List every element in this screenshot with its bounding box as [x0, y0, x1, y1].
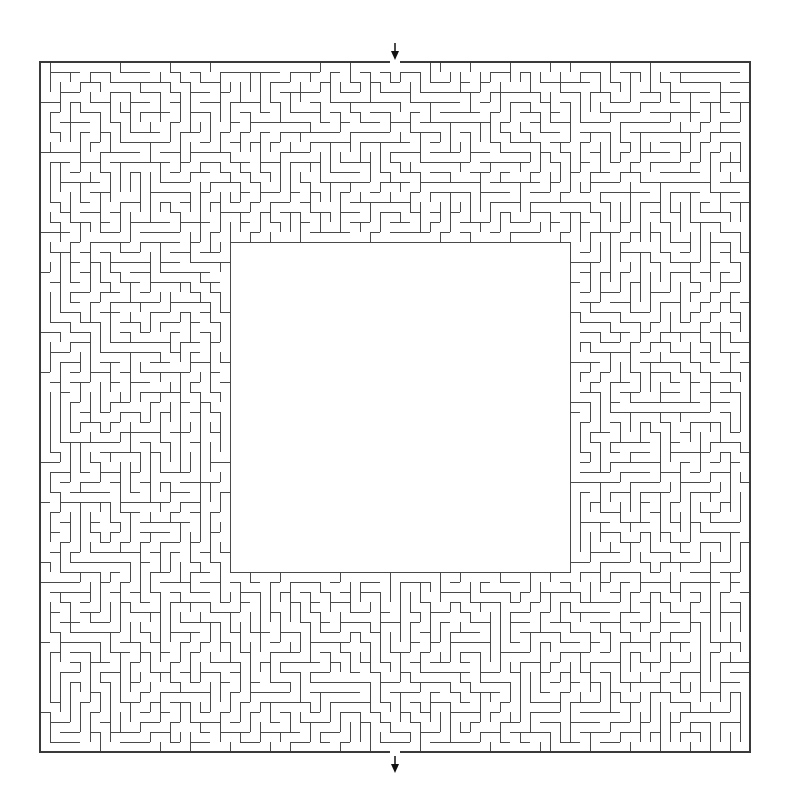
entrance-arrow-icon — [391, 43, 399, 60]
maze-outer-boundary — [40, 62, 750, 752]
maze-walls — [40, 62, 750, 752]
exit-arrow-icon — [391, 756, 399, 773]
maze-canvas[interactable] — [0, 0, 786, 807]
